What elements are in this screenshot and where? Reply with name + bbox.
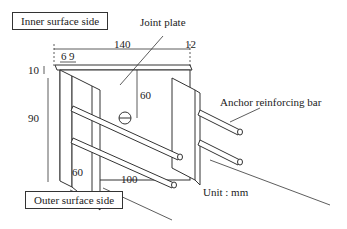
inner-surface-label: Inner surface side bbox=[12, 12, 108, 30]
dim-height: 90 bbox=[28, 112, 39, 124]
dim-width-total: 140 bbox=[114, 38, 131, 50]
joint-plate-label: Joint plate bbox=[140, 16, 186, 28]
dim-offset-b: 9 bbox=[69, 50, 75, 62]
dim-thickness-right: 12 bbox=[185, 38, 196, 50]
dim-bar-length: 100 bbox=[121, 173, 138, 185]
outer-surface-label: Outer surface side bbox=[25, 191, 123, 209]
anchor-bar-label: Anchor reinforcing bar bbox=[220, 96, 321, 108]
dim-offset-a: 6 bbox=[61, 50, 67, 62]
dim-plate-depth: 60 bbox=[72, 166, 83, 178]
dim-top-thickness: 10 bbox=[28, 64, 39, 76]
unit-label: Unit : mm bbox=[203, 186, 248, 198]
dim-hole-depth: 60 bbox=[140, 89, 151, 101]
